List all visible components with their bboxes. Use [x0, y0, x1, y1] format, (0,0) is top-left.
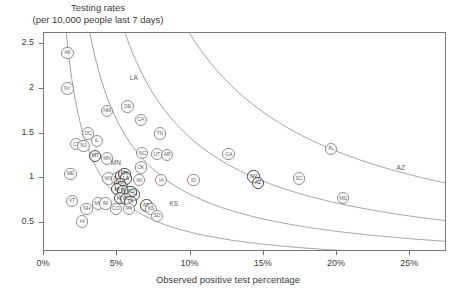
data-point-label: GA [225, 152, 232, 157]
scatter-chart-figure: Testing rates (per 10,000 people last 7 … [0, 0, 456, 296]
data-point-label: SD [153, 213, 160, 218]
data-point-label: NM [103, 108, 111, 113]
curve-label-az: AZ [397, 164, 405, 171]
data-point-label: CA [137, 117, 144, 122]
data-point-label: SC [296, 176, 303, 181]
plot-area: AKNYNMDECATNDCILCTNJMNMTNCUTARGAFLMEWVND… [43, 32, 446, 251]
data-point-hi[interactable]: HI [76, 215, 88, 227]
data-point-label: NH [83, 206, 90, 211]
data-point-label: MT [92, 153, 99, 158]
y-tick-label: 2 [4, 82, 34, 92]
x-tick-mark [336, 251, 337, 255]
data-point-me[interactable]: ME [64, 168, 76, 180]
data-point-vt[interactable]: VT [66, 195, 78, 207]
data-point-label: ME [67, 171, 74, 176]
data-point-label: CO [112, 206, 119, 211]
y-tick-mark [39, 43, 43, 44]
data-point-label: NY [64, 86, 71, 91]
data-point-label: WI [136, 178, 142, 183]
x-tick-label: 15% [246, 258, 280, 268]
data-point-label: ID [191, 178, 196, 183]
data-point-label: RI [103, 201, 108, 206]
data-point-label: AZ [255, 180, 261, 185]
y-tick-label: 2.5 [4, 37, 34, 47]
chart-title-block: Testing rates (per 10,000 people last 7 … [8, 2, 188, 26]
data-point-label: IA [159, 178, 164, 183]
data-point-label: AK [64, 50, 71, 55]
data-point-ca[interactable]: CA [135, 114, 147, 126]
data-point-label: TN [157, 131, 164, 136]
data-point-label: IL [95, 138, 99, 143]
x-tick-label: 0% [26, 258, 60, 268]
data-point-label: MN [103, 156, 111, 161]
data-point-co[interactable]: CO [110, 203, 122, 215]
data-point-de[interactable]: DE [121, 100, 133, 112]
curve-label-mn: MN [111, 159, 121, 166]
chart-subtitle: (per 10,000 people last 7 days) [8, 14, 188, 26]
data-point-nj[interactable]: NJ [77, 140, 89, 152]
x-tick-mark [190, 251, 191, 255]
data-point-label: AR [164, 152, 171, 157]
x-tick-label: 20% [319, 258, 353, 268]
data-point-label: MS [339, 196, 346, 201]
data-point-label: VT [69, 198, 75, 203]
y-tick-label: 0.5 [4, 216, 34, 226]
chart-title: Testing rates [8, 2, 188, 14]
y-tick-mark [39, 177, 43, 178]
data-point-label: FL [328, 146, 334, 151]
x-tick-label: 5% [99, 258, 133, 268]
data-point-ak[interactable]: AK [61, 47, 73, 59]
data-point-ny[interactable]: NY [61, 82, 73, 94]
data-point-il[interactable]: IL [91, 135, 103, 147]
data-point-sc[interactable]: SC [293, 172, 305, 184]
iso-curves-layer [44, 33, 446, 251]
x-tick-mark [116, 251, 117, 255]
x-tick-label: 10% [173, 258, 207, 268]
y-tick-mark [39, 222, 43, 223]
data-point-label: DE [124, 104, 131, 109]
x-axis-title: Observed positive test percentage [0, 274, 456, 285]
data-point-label: UT [154, 152, 161, 157]
y-tick-label: 1 [4, 171, 34, 181]
x-tick-label: 25% [392, 258, 426, 268]
data-point-ga[interactable]: GA [222, 148, 234, 160]
x-tick-mark [43, 251, 44, 255]
data-point-id[interactable]: ID [187, 174, 199, 186]
data-point-label: NJ [81, 143, 87, 148]
y-tick-label: 1.5 [4, 127, 34, 137]
data-point-label: HI [80, 219, 85, 224]
data-point-nh[interactable]: NH [80, 203, 92, 215]
y-tick-mark [39, 133, 43, 134]
data-point-label: DC [84, 131, 91, 136]
curve-label-la: LA [130, 74, 138, 81]
data-point-tn[interactable]: TN [154, 127, 166, 139]
data-point-label: OK [137, 165, 144, 170]
y-tick-mark [39, 88, 43, 89]
data-point-ok[interactable]: OK [135, 161, 147, 173]
x-tick-mark [263, 251, 264, 255]
x-tick-mark [409, 251, 410, 255]
data-point-label: PA [126, 206, 132, 211]
data-point-label: NC [139, 151, 146, 156]
curve-label-ks: KS [169, 200, 178, 207]
